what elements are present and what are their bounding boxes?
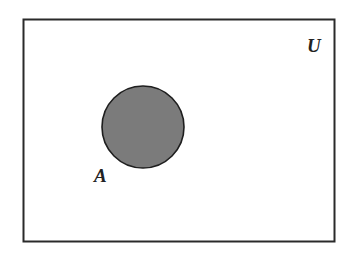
set-a-label: A	[93, 165, 107, 186]
venn-diagram: U A	[0, 0, 354, 253]
set-a-circle	[102, 86, 184, 168]
universe-label: U	[307, 35, 322, 56]
